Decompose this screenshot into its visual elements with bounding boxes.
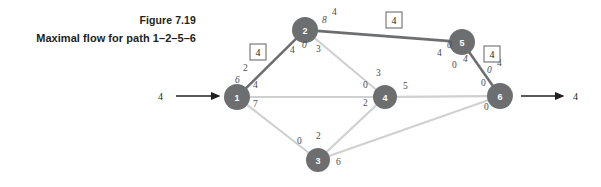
node-1: 1 [224, 84, 250, 110]
flow-label-f_n6_e56c: 0 [481, 78, 486, 88]
boxed-flow-box_e25: 4 [386, 12, 402, 28]
flow-label-f_n1_e12_in: 6 [235, 75, 240, 85]
flow-label-f_n4_e34: 2 [363, 98, 368, 108]
node-6: 6 [487, 83, 513, 109]
edge-2-5 [317, 31, 450, 41]
flow-label-f_n1_e12_out: 2 [243, 63, 248, 73]
node-label-2: 2 [302, 26, 307, 36]
node-label-1: 1 [234, 93, 239, 103]
flow-label-f_n3_e36: 6 [336, 157, 341, 167]
flow-label-f_n4_e14: 0 [363, 80, 368, 90]
outflow-value: 4 [573, 91, 578, 102]
inflow-value: 4 [158, 91, 163, 102]
flow-label-f_n5_e25: 4 [437, 48, 442, 58]
flow-label-f_n1_e13: 7 [253, 99, 258, 109]
flow-label-f_n1_e14: 4 [253, 80, 258, 90]
flow-label-f_n2_e25b: 4 [332, 7, 337, 17]
node-5: 5 [449, 29, 475, 55]
flow-label-f_n2_e12: 4 [290, 45, 295, 55]
flow-label-f_n4_e24: 3 [376, 68, 381, 78]
flow-label-f_n2_e24: 3 [316, 44, 321, 54]
flow-label-f_n6_e56: 0 [487, 65, 492, 75]
flow-label-f_n6_e36: 0 [484, 102, 489, 112]
boxed-flow-value: 4 [256, 47, 261, 58]
node-3: 3 [306, 148, 330, 172]
boxed-flow-value: 4 [392, 15, 397, 26]
nodes-layer: 123456 [224, 17, 513, 172]
flow-label-f_n3_e34: 2 [316, 131, 321, 141]
edge-4-6 [396, 96, 488, 97]
node-label-3: 3 [315, 156, 320, 166]
node-label-6: 6 [497, 92, 502, 102]
flow-label-f_n4_e46: 5 [403, 81, 408, 91]
edge-3-4 [326, 105, 377, 153]
boxed-flow-box_e56: 4 [484, 46, 500, 62]
flow-label-f_n5_e56b: 4 [463, 54, 468, 64]
node-label-5: 5 [459, 38, 464, 48]
network-flow-diagram: 123456 264740384400404003025026 444 44 [0, 0, 601, 187]
flow-label-f_n2_e25: 8 [322, 15, 327, 25]
flow-label-f_n5_e25b: 0 [447, 40, 452, 50]
boxed-flow-value: 4 [490, 49, 495, 60]
flow-label-f_n5_e56: 0 [452, 60, 457, 70]
flow-label-f_n3_e13: 0 [297, 136, 302, 146]
node-4: 4 [373, 85, 397, 109]
flow-label-f_n2_e12b: 0 [302, 40, 307, 50]
boxed-flow-box_e12: 4 [250, 44, 266, 60]
node-label-4: 4 [382, 93, 387, 103]
figure-container: Figure 7.19 Maximal flow for path 1–2–5–… [0, 0, 601, 187]
